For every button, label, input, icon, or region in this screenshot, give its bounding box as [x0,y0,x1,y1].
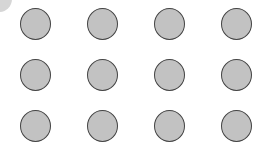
circle-r3-c1[interactable] [20,110,51,142]
circle-r1-c1[interactable] [20,8,51,40]
circle-r1-c2[interactable] [87,8,118,40]
circle-r2-c1[interactable] [20,59,51,91]
circle-r3-c3[interactable] [154,110,185,142]
circle-r3-c4[interactable] [221,110,252,142]
circle-r2-c4[interactable] [221,59,252,91]
circle-r1-c4[interactable] [221,8,252,40]
circle-r2-c2[interactable] [87,59,118,91]
circle-grid [0,0,261,155]
circle-r1-c3[interactable] [154,8,185,40]
circle-r2-c3[interactable] [154,59,185,91]
circle-r3-c2[interactable] [87,110,118,142]
